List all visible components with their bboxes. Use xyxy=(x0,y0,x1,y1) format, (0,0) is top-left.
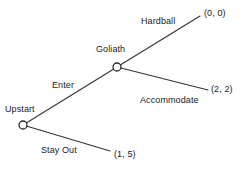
branch-line-accommodate xyxy=(117,67,208,90)
payoff-label-stay-out: (1, 5) xyxy=(114,149,136,159)
tree-branch-lines xyxy=(23,16,208,151)
node-label-upstart: Upstart xyxy=(5,104,35,114)
branch-line-enter xyxy=(23,67,117,125)
branch-label-stay-out: Stay Out xyxy=(41,145,77,155)
decision-node-goliath xyxy=(113,63,121,71)
payoff-label-accommodate: (2, 2) xyxy=(211,84,233,94)
payoff-label-hardball: (0, 0) xyxy=(204,8,226,18)
game-tree-figure: Upstart Goliath Enter Stay Out Hardball … xyxy=(0,0,243,170)
node-label-goliath: Goliath xyxy=(96,44,125,54)
branch-label-hardball: Hardball xyxy=(141,16,175,26)
branch-label-accommodate: Accommodate xyxy=(140,95,199,105)
decision-node-upstart xyxy=(19,121,27,129)
branch-label-enter: Enter xyxy=(52,80,74,90)
game-tree-canvas xyxy=(0,0,243,170)
